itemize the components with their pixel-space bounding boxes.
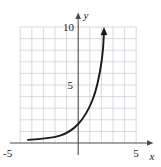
graph-svg: -5 5 5 10 x y bbox=[0, 0, 161, 167]
x-axis-name-label: x bbox=[149, 150, 155, 162]
x-tick-label-right: 5 bbox=[133, 147, 139, 159]
figure-background bbox=[0, 0, 161, 167]
x-tick-label-left: -5 bbox=[3, 147, 13, 159]
y-tick-label-mid: 5 bbox=[68, 79, 74, 91]
y-tick-label-top: 10 bbox=[63, 21, 75, 33]
exponential-growth-figure: -5 5 5 10 x y bbox=[0, 0, 161, 167]
y-axis-name-label: y bbox=[83, 9, 89, 21]
